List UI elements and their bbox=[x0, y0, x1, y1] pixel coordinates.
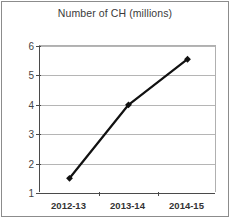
y-axis-tick-2 bbox=[36, 164, 41, 165]
gridline-y-6 bbox=[40, 46, 215, 47]
gridline-y-2 bbox=[40, 164, 215, 165]
gridline-y-4 bbox=[40, 105, 215, 106]
y-axis-tick-3 bbox=[36, 134, 41, 135]
x-axis-tick-1 bbox=[99, 192, 100, 196]
chart-frame: Number of CH (millions) 123456 2012-1320… bbox=[1, 1, 229, 217]
x-axis-label-2013-14: 2013-14 bbox=[110, 200, 145, 211]
chart-title: Number of CH (millions) bbox=[2, 7, 228, 19]
y-axis-label-4: 4 bbox=[28, 99, 34, 110]
y-axis-label-2: 2 bbox=[28, 158, 34, 169]
y-axis-tick-5 bbox=[36, 75, 41, 76]
y-axis-label-3: 3 bbox=[28, 129, 34, 140]
gridline-y-3 bbox=[40, 134, 215, 135]
x-axis-tick-2 bbox=[158, 192, 159, 196]
plot-area: 123456 bbox=[39, 45, 216, 192]
y-axis-label-1: 1 bbox=[28, 188, 34, 199]
y-axis-tick-1 bbox=[36, 193, 41, 194]
gridline-y-1 bbox=[40, 193, 215, 194]
y-axis-tick-4 bbox=[36, 105, 41, 106]
y-axis-label-6: 6 bbox=[28, 41, 34, 52]
y-axis-tick-6 bbox=[36, 46, 41, 47]
x-axis-label-2012-13: 2012-13 bbox=[51, 200, 86, 211]
gridline-y-5 bbox=[40, 75, 215, 76]
x-axis-label-2014-15: 2014-15 bbox=[169, 200, 204, 211]
y-axis-label-5: 5 bbox=[28, 70, 34, 81]
